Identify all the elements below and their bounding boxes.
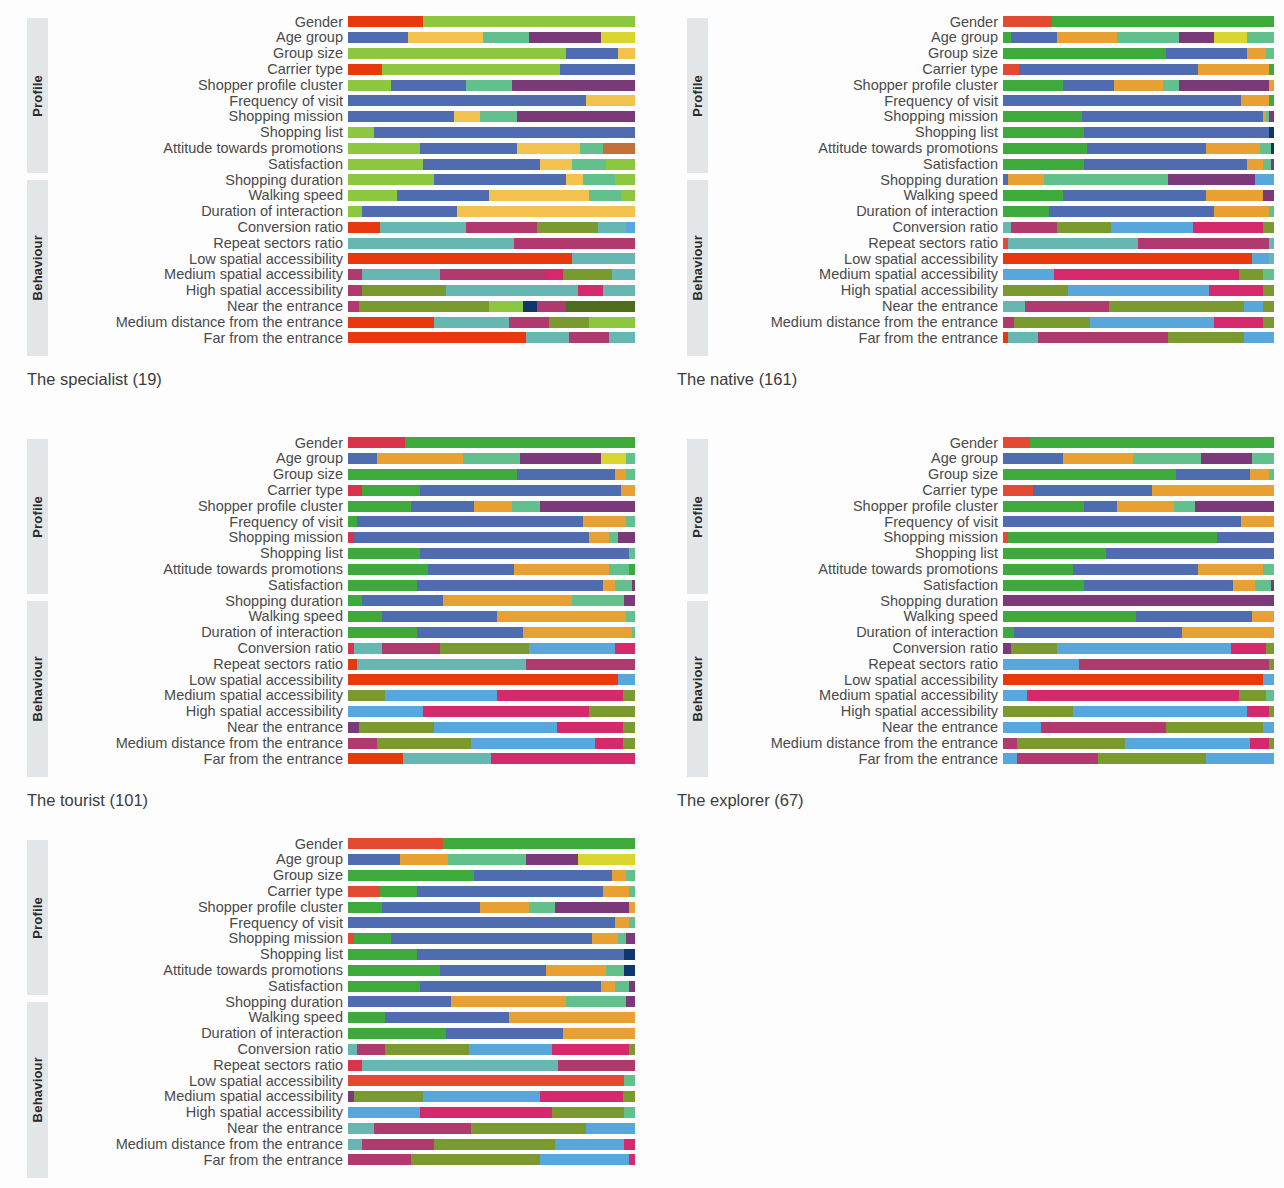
caption-tourist: The tourist (101) — [27, 791, 148, 810]
stacked-bar — [1003, 738, 1274, 749]
stacked-bar — [348, 580, 635, 591]
bar-segment — [348, 564, 428, 575]
chart-rows-native: GenderAge groupGroup sizeCarrier typeSho… — [718, 14, 1274, 346]
chart-row: Carrier type — [718, 61, 1274, 77]
chart-row: Satisfaction — [718, 577, 1274, 593]
chart-row: Group size — [60, 467, 635, 483]
bar-segment — [509, 317, 549, 328]
bar-segment — [1033, 485, 1152, 496]
row-label: Near the entrance — [60, 1121, 348, 1136]
bar-segment — [354, 643, 383, 654]
bar-segment — [1206, 753, 1274, 764]
stacked-bar — [348, 269, 635, 280]
chart-row: Near the entrance — [718, 298, 1274, 314]
chart-row: Shopping duration — [718, 593, 1274, 609]
stacked-bar — [348, 854, 635, 865]
bar-segment — [348, 595, 362, 606]
row-label: Duration of interaction — [60, 204, 348, 219]
stacked-bar — [1003, 516, 1274, 527]
bar-segment — [586, 95, 635, 106]
bar-segment — [420, 548, 630, 559]
bar-segment — [1106, 548, 1274, 559]
row-label: Satisfaction — [718, 578, 1003, 593]
bar-segment — [1263, 159, 1271, 170]
bar-segment — [629, 548, 635, 559]
chart-row: Carrier type — [718, 482, 1274, 498]
row-label: Conversion ratio — [60, 1042, 348, 1057]
bar-segment — [1044, 174, 1169, 185]
chart-row: Shopper profile cluster — [60, 899, 635, 915]
bar-segment — [1030, 437, 1274, 448]
bar-segment — [1003, 159, 1084, 170]
row-label: Medium distance from the entrance — [60, 736, 348, 751]
chart-row: Duration of interaction — [60, 1026, 635, 1042]
stacked-bar — [348, 332, 635, 343]
bar-segment — [405, 437, 635, 448]
stacked-bar — [348, 190, 635, 201]
chart-row: Satisfaction — [60, 577, 635, 593]
row-label: Frequency of visit — [60, 515, 348, 530]
bar-segment — [1027, 690, 1238, 701]
row-label: Low spatial accessibility — [60, 673, 348, 688]
row-label: Repeat sectors ratio — [718, 657, 1003, 672]
chart-row: Walking speed — [60, 609, 635, 625]
panel-explorer: Profile Behaviour GenderAge groupGroup s… — [660, 435, 1284, 780]
bar-segment — [348, 469, 517, 480]
bar-segment — [1206, 143, 1260, 154]
chart-row: Shopping duration — [60, 994, 635, 1010]
row-label: Medium spatial accessibility — [718, 688, 1003, 703]
bar-segment — [615, 981, 629, 992]
bar-segment — [348, 317, 434, 328]
caption-specialist: The specialist (19) — [27, 370, 162, 389]
bar-segment — [540, 501, 635, 512]
bar-segment — [546, 269, 563, 280]
stacked-bar — [1003, 564, 1274, 575]
stacked-bar — [348, 722, 635, 733]
bar-segment — [552, 1107, 624, 1118]
bar-segment — [621, 190, 635, 201]
bar-segment — [1008, 238, 1138, 249]
row-label: Shopper profile cluster — [60, 900, 348, 915]
bar-segment — [1008, 332, 1038, 343]
bar-segment — [1269, 80, 1274, 91]
chart-row: Low spatial accessibility — [60, 251, 635, 267]
chart-row: Shopping mission — [718, 530, 1274, 546]
bar-segment — [348, 48, 566, 59]
bar-segment — [382, 902, 480, 913]
bar-segment — [1114, 80, 1163, 91]
chart-row: Group size — [718, 467, 1274, 483]
bar-segment — [1269, 738, 1274, 749]
chart-row: High spatial accessibility — [60, 1105, 635, 1121]
bar-segment — [1011, 222, 1057, 233]
row-label: Age group — [60, 852, 348, 867]
bar-segment — [1082, 111, 1264, 122]
bar-segment — [348, 854, 400, 865]
bar-segment — [1003, 501, 1084, 512]
chart-row: Shopping mission — [718, 109, 1274, 125]
bar-segment — [1263, 722, 1274, 733]
stacked-bar — [348, 222, 635, 233]
bar-segment — [523, 301, 537, 312]
panel-specialist: Profile Behaviour GenderAge groupGroup s… — [0, 14, 645, 359]
stacked-bar — [1003, 548, 1274, 559]
bar-segment — [609, 332, 635, 343]
row-label: Age group — [60, 451, 348, 466]
bar-segment — [348, 981, 420, 992]
bar-segment — [380, 886, 417, 897]
bar-segment — [391, 933, 592, 944]
bar-segment — [1063, 190, 1207, 201]
chart-row: Medium distance from the entrance — [60, 314, 635, 330]
stacked-bar — [1003, 722, 1274, 733]
bar-segment — [348, 301, 359, 312]
stacked-bar — [348, 564, 635, 575]
bar-segment — [374, 127, 635, 138]
bar-segment — [1003, 580, 1084, 591]
bar-segment — [469, 1044, 552, 1055]
chart-row: Far from the entrance — [60, 330, 635, 346]
bar-segment — [623, 722, 634, 733]
bar-segment — [1098, 753, 1206, 764]
bar-segment — [514, 564, 609, 575]
bar-segment — [463, 453, 520, 464]
rail-behaviour-label: Behaviour — [30, 656, 45, 721]
bar-segment — [434, 174, 566, 185]
